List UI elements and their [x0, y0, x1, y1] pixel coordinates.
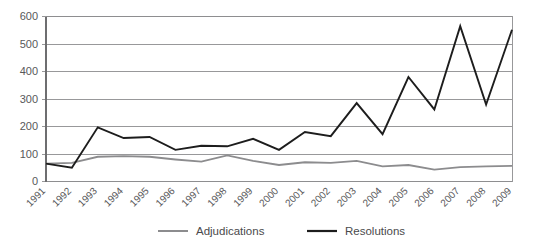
x-axis-tick-label: 2008 [464, 185, 488, 209]
x-axis-tick-label: 2009 [490, 185, 514, 209]
x-axis-tick-labels: 1991199219931994199519961997199819992000… [24, 185, 514, 209]
x-axis-tick-label: 2004 [360, 185, 384, 209]
y-axis-tick-labels: 0100200300400500600 [20, 10, 38, 187]
chart-legend: AdjudicationsResolutions [158, 225, 405, 237]
data-series [46, 26, 512, 170]
x-axis-tick-label: 1993 [76, 185, 100, 209]
x-axis-tick-label: 2005 [386, 185, 410, 209]
y-axis-tick-label: 600 [20, 10, 38, 22]
chart-canvas: 0100200300400500600 19911992199319941995… [0, 0, 535, 248]
x-axis-tick-label: 1996 [153, 185, 177, 209]
x-axis-tick-label: 1994 [102, 185, 126, 209]
y-axis-tick-label: 200 [20, 120, 38, 132]
x-axis-tick-label: 1997 [179, 185, 203, 209]
y-axis [42, 17, 46, 182]
x-axis-tick-label: 2003 [335, 185, 359, 209]
legend-label-adjudications: Adjudications [196, 225, 265, 237]
legend-label-resolutions: Resolutions [345, 225, 405, 237]
series-line-resolutions [46, 26, 512, 168]
line-chart: 0100200300400500600 19911992199319941995… [0, 0, 535, 248]
y-axis-tick-label: 400 [20, 65, 38, 77]
y-axis-tick-label: 500 [20, 38, 38, 50]
y-axis-tick-label: 300 [20, 93, 38, 105]
x-axis-tick-label: 2001 [283, 185, 307, 209]
y-axis-tick-label: 100 [20, 148, 38, 160]
x-axis-tick-label: 1991 [24, 185, 48, 209]
x-axis-tick-label: 1999 [231, 185, 255, 209]
x-axis-tick-label: 2007 [438, 185, 462, 209]
x-axis-tick-label: 2000 [257, 185, 281, 209]
x-axis-tick-label: 1995 [127, 185, 151, 209]
x-axis-tick-label: 1998 [205, 185, 229, 209]
x-axis-tick-label: 2006 [412, 185, 436, 209]
y-axis-tick-label: 0 [32, 175, 38, 187]
x-axis-tick-label: 2002 [309, 185, 333, 209]
series-line-adjudications [46, 155, 512, 169]
x-axis-tick-label: 1992 [50, 185, 74, 209]
